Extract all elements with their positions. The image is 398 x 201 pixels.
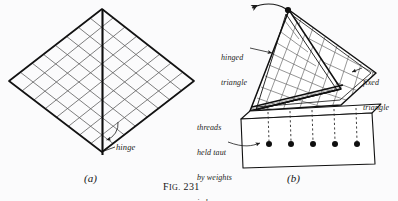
hinged-triangle-label: hinged triangle bbox=[221, 37, 247, 104]
threads-label: threads held taut by weights in box bbox=[197, 107, 232, 201]
threads-label-line1: threads bbox=[197, 124, 232, 132]
panel-a-label: (a) bbox=[84, 172, 97, 184]
panel-a-diagram bbox=[9, 9, 194, 161]
swing-arrow[interactable] bbox=[252, 4, 286, 9]
weight-dot bbox=[310, 141, 316, 147]
panel-b-diagram bbox=[228, 4, 381, 168]
hinge-label: hinge bbox=[116, 143, 135, 152]
hinged-triangle-label-line2: triangle bbox=[221, 79, 247, 87]
caption-smallcaps: IG. bbox=[169, 183, 181, 192]
figure-page: hinge hinged triangle fixed triangle thr… bbox=[0, 0, 398, 201]
caption-number: 231 bbox=[184, 181, 200, 192]
figure-caption: FIG. 231 bbox=[163, 181, 200, 192]
fixed-triangle-label-line1: fixed bbox=[363, 79, 389, 87]
panel-b-label: (b) bbox=[287, 172, 300, 184]
weight-dot bbox=[354, 141, 360, 147]
weight-dot bbox=[288, 141, 294, 147]
fixed-triangle-label-line2: triangle bbox=[363, 104, 389, 112]
weight-dot bbox=[266, 141, 272, 147]
fixed-triangle-label: fixed triangle bbox=[363, 62, 389, 129]
hinged-triangle-leader bbox=[250, 48, 272, 53]
apex-pivot-dot bbox=[285, 7, 291, 13]
threads-label-line2: held taut bbox=[197, 149, 232, 157]
weight-box bbox=[241, 113, 375, 168]
threads-label-line3: by weights bbox=[197, 174, 232, 182]
threads-label-line4: in box bbox=[197, 199, 232, 201]
hinge-angle-arc bbox=[107, 122, 119, 140]
weight-dot bbox=[332, 141, 338, 147]
hinged-triangle-label-line1: hinged bbox=[221, 54, 247, 62]
